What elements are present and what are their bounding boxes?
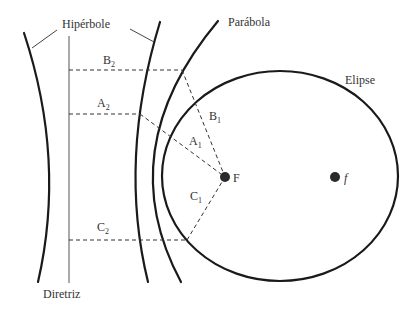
focus-f-second: [330, 172, 340, 182]
hyperbola-right-branch: [136, 22, 161, 282]
diagram-svg: Hipérbole Parábola Elipse Diretriz F f B…: [0, 0, 420, 318]
hyperbola-left-branch: [24, 33, 49, 282]
focus-f-main: [220, 172, 230, 182]
hyperbola-leader-left: [32, 30, 57, 48]
label-a1: A1: [189, 134, 202, 150]
label-a2: A2: [97, 96, 110, 112]
hyperbola-label: Hipérbole: [62, 17, 110, 31]
focus-f-second-label: f: [344, 171, 349, 185]
segment-c1: [187, 177, 225, 240]
focus-f-label: F: [233, 171, 240, 185]
parabola-label: Parábola: [228, 15, 271, 29]
conic-diagram: Hipérbole Parábola Elipse Diretriz F f B…: [0, 0, 420, 318]
parabola-curve: [153, 21, 218, 282]
label-c2: C2: [97, 220, 109, 236]
hyperbola-leader-right: [130, 29, 154, 42]
label-c1: C1: [190, 189, 202, 205]
label-b2: B2: [103, 53, 115, 69]
ellipse-label: Elipse: [345, 73, 375, 87]
directrix-label: Diretriz: [43, 287, 80, 301]
label-b1: B1: [209, 109, 221, 125]
ellipse-curve: [162, 71, 398, 281]
